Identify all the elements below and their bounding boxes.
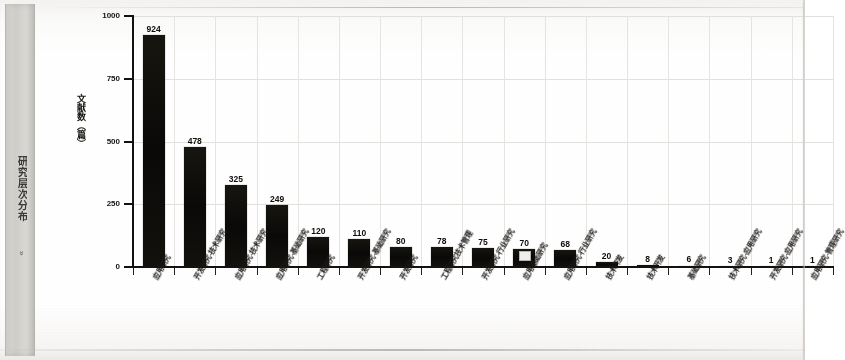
- x-axis-tick: [586, 268, 587, 275]
- bar-value-label: 325: [218, 174, 254, 184]
- bar-chart: 文献数（篇） 924478325249120110807875706820863…: [38, 2, 804, 358]
- page-edge-right: [802, 0, 805, 360]
- x-axis-tick: [709, 268, 710, 275]
- y-axis-tick: [124, 266, 133, 268]
- vertical-gridline: [462, 16, 463, 267]
- vertical-gridline: [545, 16, 546, 267]
- x-axis-tick: [833, 268, 834, 275]
- bar: [184, 147, 206, 267]
- y-axis-tick: [124, 203, 133, 205]
- vertical-gridline: [174, 16, 175, 267]
- x-axis-tick: [751, 268, 752, 275]
- horizontal-gridline: [133, 16, 833, 17]
- y-axis-tick: [124, 78, 133, 80]
- x-axis-tick: [627, 268, 628, 275]
- bar-value-label: 110: [341, 228, 377, 238]
- bar: [143, 35, 165, 267]
- vertical-gridline: [421, 16, 422, 267]
- x-axis-tick: [504, 268, 505, 275]
- y-axis-tick: [124, 15, 133, 17]
- y-axis-tick-label: 750: [80, 74, 120, 83]
- bar-value-label: 924: [136, 24, 172, 34]
- vertical-gridline: [627, 16, 628, 267]
- x-axis-tick: [215, 268, 216, 275]
- x-axis-tick: [339, 268, 340, 275]
- horizontal-gridline: [133, 79, 833, 80]
- x-axis-tick: [421, 268, 422, 275]
- y-axis-tick: [124, 141, 133, 143]
- y-axis-tick-label: 1000: [80, 11, 120, 20]
- bar-value-label: 478: [177, 136, 213, 146]
- x-axis-tick: [792, 268, 793, 275]
- vertical-gridline: [668, 16, 669, 267]
- sidebar-section-title: 研究层次分布: [12, 156, 28, 222]
- vertical-gridline: [339, 16, 340, 267]
- x-axis-tick: [174, 268, 175, 275]
- plot-area: 92447832524912011080787570682086311: [133, 16, 833, 267]
- x-axis-tick: [668, 268, 669, 275]
- x-axis-tick: [545, 268, 546, 275]
- horizontal-gridline: [133, 142, 833, 143]
- x-axis-tick: [257, 268, 258, 275]
- page-fold-line-bottom: [0, 349, 805, 351]
- vertical-gridline: [215, 16, 216, 267]
- y-axis-tick-label: 250: [80, 199, 120, 208]
- vertical-gridline: [709, 16, 710, 267]
- x-axis-tick: [133, 268, 134, 275]
- bar-value-label: 249: [259, 194, 295, 204]
- y-axis-tick-label: 500: [80, 137, 120, 146]
- x-axis-tick: [298, 268, 299, 275]
- left-sidebar-panel: 研究层次分布 »: [5, 4, 35, 356]
- x-axis-tick: [380, 268, 381, 275]
- x-axis-tick: [462, 268, 463, 275]
- y-axis-tick-label: 0: [80, 262, 120, 271]
- chevron-right-icon[interactable]: »: [14, 251, 26, 255]
